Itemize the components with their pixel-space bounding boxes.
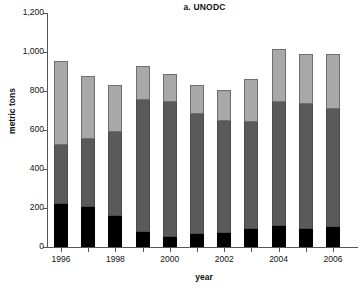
bar-segment-top [81, 76, 95, 138]
chart-title: a. UNODC [0, 2, 361, 12]
x-tick-label: 2004 [259, 254, 299, 264]
x-tick-mark [143, 248, 144, 252]
y-tick-label: 0 [39, 241, 44, 251]
bar-stack [217, 90, 231, 247]
bar-stack [136, 66, 150, 247]
bar-stack [244, 79, 258, 247]
x-tick-label: 2000 [150, 254, 190, 264]
x-tick-mark [279, 248, 280, 252]
x-tick-mark [61, 248, 62, 252]
bar-segment-middle [108, 132, 122, 216]
x-tick-mark [115, 248, 116, 252]
chart-figure: a. UNODC metric tons 02004006008001,0001… [0, 0, 361, 288]
x-tick-label: 1998 [95, 254, 135, 264]
bar-segment-bottom [163, 237, 177, 247]
y-tick-label: 800 [30, 85, 44, 95]
y-axis-line [47, 13, 48, 248]
x-tick-label: 1996 [41, 254, 81, 264]
bar-segment-middle [190, 114, 204, 234]
bar-segment-middle [272, 102, 286, 226]
bar-segment-top [326, 54, 340, 109]
bar-stack [54, 61, 68, 247]
bar-stack [299, 54, 313, 247]
bar-segment-middle [163, 102, 177, 237]
bar-stack [272, 49, 286, 247]
bar-segment-middle [136, 100, 150, 233]
bar-segment-middle [299, 104, 313, 229]
bar-segment-top [190, 85, 204, 114]
x-tick-mark [170, 248, 171, 252]
bar-segment-bottom [136, 232, 150, 247]
bar-segment-middle [54, 145, 68, 204]
x-tick-mark [88, 248, 89, 252]
bar-segment-middle [81, 139, 95, 207]
bar-segment-bottom [272, 226, 286, 247]
bar-segment-top [54, 61, 68, 146]
x-tick-mark [251, 248, 252, 252]
x-tick-mark [224, 248, 225, 252]
bar-segment-bottom [54, 204, 68, 247]
bar-segment-middle [244, 122, 258, 229]
x-axis-title: year [47, 272, 361, 282]
bar-stack [326, 54, 340, 247]
y-tick-label: 200 [30, 202, 44, 212]
bar-segment-middle [217, 121, 231, 233]
bar-segment-bottom [108, 216, 122, 247]
bar-segment-top [136, 66, 150, 100]
x-tick-label: 2002 [204, 254, 244, 264]
y-tick-label: 1,200 [23, 7, 44, 17]
bar-segment-bottom [299, 229, 313, 247]
y-tick-label: 400 [30, 163, 44, 173]
bar-segment-bottom [190, 234, 204, 247]
bar-segment-top [108, 85, 122, 132]
bar-segment-top [272, 49, 286, 102]
bar-segment-middle [326, 109, 340, 228]
bar-stack [190, 85, 204, 247]
bar-segment-bottom [244, 229, 258, 247]
x-tick-mark [197, 248, 198, 252]
bar-segment-bottom [217, 233, 231, 247]
bar-segment-top [163, 74, 177, 102]
bar-segment-top [244, 79, 258, 123]
y-tick-label: 600 [30, 124, 44, 134]
x-axis-line [47, 247, 358, 248]
bar-segment-bottom [81, 207, 95, 247]
bar-stack [81, 76, 95, 247]
x-tick-mark [306, 248, 307, 252]
y-tick-label: 1,000 [23, 46, 44, 56]
x-tick-mark [333, 248, 334, 252]
bar-stack [108, 85, 122, 247]
bar-segment-top [299, 54, 313, 105]
bar-stack [163, 74, 177, 247]
x-tick-label: 2006 [313, 254, 353, 264]
bar-segment-top [217, 90, 231, 121]
y-axis-title: metric tons [7, 66, 17, 156]
plot-area: 02004006008001,0001,200 1996199820002002… [47, 13, 357, 247]
bar-segment-bottom [326, 227, 340, 247]
